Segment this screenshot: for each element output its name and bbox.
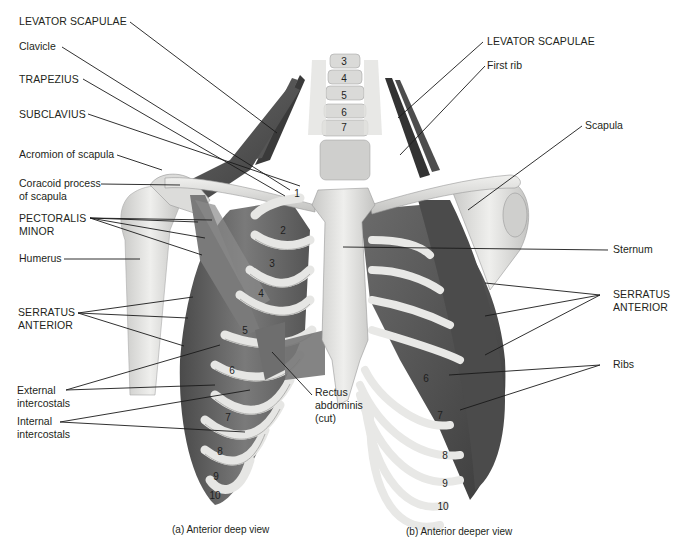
label-sternum: Sternum [613,243,653,256]
rib-left-3: 3 [264,258,280,269]
label-coracoid: Coracoid process of scapula [19,177,101,203]
glenoid-right [503,193,527,237]
caption-panel-a: (a) Anterior deep view [172,524,269,535]
label-levator-scapulae-right: LEVATOR SCAPULAE [487,35,595,48]
label-external-intercostals: External intercostals [17,384,70,410]
vertebra-c3: 3 [336,56,352,67]
rib-left-7: 7 [220,412,236,423]
label-acromion: Acromion of scapula [19,148,114,161]
label-levator-scapulae-left: LEVATOR SCAPULAE [19,15,127,28]
rib-left-5: 5 [237,325,253,336]
rib-right-8: 8 [437,450,453,461]
label-pectoralis-minor: PECTORALIS MINOR [19,212,86,238]
humerus [121,186,180,395]
rib-left-6: 6 [224,365,240,376]
vertebra-c4: 4 [336,73,352,84]
rib-right-6: 6 [418,373,434,384]
vertebra-c6: 6 [336,107,352,118]
rib-left-4: 4 [253,288,269,299]
rib-right-10: 10 [435,501,451,512]
vertebra-c7: 7 [336,122,352,133]
rib-right-7: 7 [432,410,448,421]
label-ribs: Ribs [613,358,634,371]
label-clavicle: Clavicle [19,40,56,53]
vertebra-c5: 5 [336,90,352,101]
label-serratus-anterior-left: SERRATUS ANTERIOR [18,306,75,332]
rib-left-10: 10 [207,490,223,501]
rib-right-9: 9 [437,478,453,489]
rib-left-8: 8 [212,446,228,457]
label-internal-intercostals: Internal intercostals [17,415,70,441]
levator-scapulae-right [385,78,440,178]
label-first-rib: First rib [487,59,522,72]
label-trapezius: TRAPEZIUS [19,73,79,86]
caption-panel-b: (b) Anterior deeper view [406,526,512,537]
rib-left-1: 1 [289,188,305,199]
rib-left-2: 2 [275,225,291,236]
label-scapula: Scapula [585,119,623,132]
rib-left-9: 9 [208,471,224,482]
label-humerus: Humerus [19,252,62,265]
label-subclavius: SUBCLAVIUS [19,108,86,121]
label-serratus-anterior-right: SERRATUS ANTERIOR [613,288,670,314]
label-rectus-abdominis: Rectus abdominis (cut) [315,386,363,425]
